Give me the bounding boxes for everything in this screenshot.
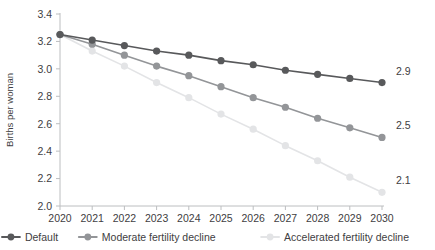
series-marker: [346, 75, 353, 82]
y-tick-label: 3.0: [37, 63, 52, 75]
series-marker: [217, 111, 224, 118]
series-marker: [185, 52, 192, 59]
chart-legend: DefaultModerate fertility declineAcceler…: [2, 231, 409, 243]
x-tick-label: 2023: [145, 212, 169, 224]
series-marker: [89, 47, 96, 54]
y-axis-title: Births per woman: [4, 73, 15, 147]
legend-item-label: Accelerated fertility decline: [284, 231, 409, 243]
series-marker: [314, 71, 321, 78]
series-marker: [250, 94, 257, 101]
series-marker: [378, 134, 385, 141]
y-tick-label: 2.4: [37, 145, 52, 157]
series-marker: [217, 83, 224, 90]
x-tick-label: 2024: [177, 212, 201, 224]
x-axis-tick-group: 2020202120222023202420252026202720282029…: [48, 206, 394, 224]
series-marker: [250, 126, 257, 133]
y-axis-tick-group: 3.43.23.02.82.62.42.22.0: [37, 8, 60, 212]
x-tick-label: 2030: [370, 212, 394, 224]
legend-item-label: Moderate fertility decline: [102, 231, 216, 243]
series-end-value: 2.9: [396, 65, 411, 77]
series-marker: [282, 104, 289, 111]
legend-item-label: Default: [25, 231, 58, 243]
y-tick-label: 2.0: [37, 200, 52, 212]
chart-canvas: 3.43.23.02.82.62.42.22.0 202020212022202…: [0, 0, 435, 250]
series-end-value: 2.1: [396, 174, 411, 186]
x-tick-label: 2020: [48, 212, 72, 224]
series-marker: [282, 142, 289, 149]
legend-marker-swatch: [267, 234, 274, 241]
x-tick-label: 2028: [306, 212, 330, 224]
series-marker: [153, 79, 160, 86]
x-tick-label: 2021: [81, 212, 105, 224]
y-tick-label: 3.4: [37, 8, 52, 20]
x-tick-label: 2022: [113, 212, 137, 224]
y-tick-label: 2.2: [37, 172, 52, 184]
series-marker: [217, 57, 224, 64]
series-marker: [185, 72, 192, 79]
series-end-value: 2.5: [396, 119, 411, 131]
end-label-group: 2.92.52.1: [396, 65, 411, 187]
series-marker: [378, 189, 385, 196]
y-tick-label: 3.2: [37, 35, 52, 47]
legend-marker-swatch: [8, 234, 15, 241]
y-tick-label: 2.8: [37, 90, 52, 102]
x-tick-label: 2027: [274, 212, 298, 224]
series-marker: [121, 42, 128, 49]
series-marker: [250, 61, 257, 68]
series-marker: [282, 67, 289, 74]
series-marker: [346, 174, 353, 181]
x-tick-label: 2029: [338, 212, 362, 224]
series-marker: [314, 115, 321, 122]
series-marker: [153, 47, 160, 54]
series-group: [56, 31, 385, 196]
legend-marker-swatch: [84, 234, 91, 241]
series-marker: [153, 63, 160, 70]
series-marker: [378, 79, 385, 86]
x-tick-label: 2026: [242, 212, 266, 224]
series-marker: [56, 31, 63, 38]
y-tick-label: 2.6: [37, 118, 52, 130]
fertility-line-chart: 3.43.23.02.82.62.42.22.0 202020212022202…: [0, 0, 435, 250]
x-tick-label: 2025: [209, 212, 233, 224]
series-marker: [89, 36, 96, 43]
series-marker: [121, 52, 128, 59]
series-marker: [185, 94, 192, 101]
series-marker: [346, 124, 353, 131]
series-marker: [121, 63, 128, 70]
series-marker: [314, 157, 321, 164]
